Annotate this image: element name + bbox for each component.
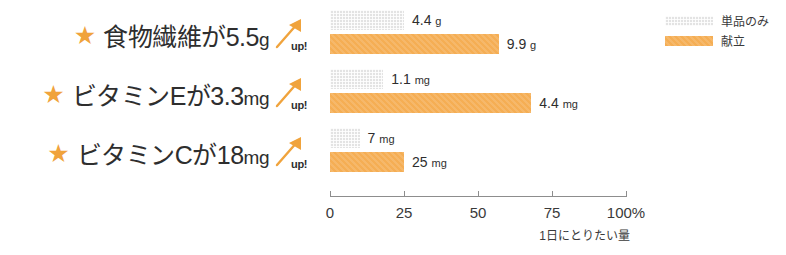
bar-value-number: 4.4: [412, 12, 431, 28]
legend: 単品のみ 献立: [665, 13, 769, 53]
axis-tick-label: 25: [396, 204, 413, 221]
legend-label: 単品のみ: [721, 12, 769, 29]
up-arrow-icon: up!: [274, 77, 314, 111]
claim-nutrient: 食物繊維が: [103, 23, 226, 51]
bar-group-vitamin-e: 1.1 mg 4.4 mg: [330, 69, 630, 117]
axis-caption: 1日にとりたい量: [539, 226, 630, 243]
claim-row-vitamin-c: ★ ビタミンCが18mg up!: [0, 130, 318, 176]
bar-single-item: [330, 10, 404, 30]
bar-value-meal-set: 25 mg: [412, 152, 447, 173]
axis-tick-label: 100%: [607, 204, 645, 221]
legend-swatch-icon: [665, 36, 713, 46]
bar-meal-set: [330, 34, 499, 54]
bar-value-meal-set: 4.4 mg: [539, 93, 578, 114]
claim-unit: mg: [244, 147, 269, 168]
bar-value-unit: mg: [379, 133, 394, 145]
claim-amount: 18: [217, 141, 244, 169]
star-icon: ★: [42, 82, 64, 107]
bar-value-unit: g: [435, 15, 441, 27]
bar-single-item: [330, 128, 360, 148]
claim-label: 食物繊維が5.5g: [103, 17, 269, 53]
bar-value-unit: mg: [431, 157, 446, 169]
claim-amount: 5.5: [226, 23, 259, 51]
bar-value-number: 9.9: [507, 36, 526, 52]
claim-label: ビタミンEが3.3mg: [72, 76, 269, 112]
bar-value-number: 4.4: [539, 95, 558, 111]
star-icon: ★: [47, 141, 69, 166]
legend-label: 献立: [721, 32, 745, 49]
axis-tick: [626, 191, 627, 197]
up-badge-text: up!: [291, 158, 307, 170]
axis-tick: [478, 191, 479, 197]
bar-group-vitamin-c: 7 mg 25 mg: [330, 128, 630, 176]
axis-tick: [552, 191, 553, 197]
claim-row-vitamin-e: ★ ビタミンEが3.3mg up!: [0, 71, 318, 117]
axis-tick-label: 50: [470, 204, 487, 221]
bar-value-single-item: 1.1 mg: [391, 69, 430, 90]
legend-swatch-icon: [665, 16, 713, 26]
legend-item-meal-set: 献立: [665, 33, 769, 48]
bar-value-unit: mg: [563, 98, 578, 110]
bar-value-number: 7: [368, 130, 376, 146]
claim-nutrient: ビタミンCが: [77, 141, 217, 169]
claim-row-fiber: ★ 食物繊維が5.5g up!: [0, 12, 318, 58]
bar-meal-set: [330, 93, 531, 113]
axis-tick: [330, 191, 331, 197]
legend-item-single-item: 単品のみ: [665, 13, 769, 28]
bar-value-number: 25: [412, 154, 428, 170]
claim-label: ビタミンCが18mg: [77, 135, 269, 171]
claim-unit: mg: [244, 88, 269, 109]
bar-meal-set: [330, 152, 404, 172]
up-badge-text: up!: [291, 99, 307, 111]
claim-amount: 3.3: [210, 82, 243, 110]
bar-value-meal-set: 9.9 g: [507, 34, 536, 55]
bar-value-single-item: 7 mg: [368, 128, 395, 149]
up-badge-text: up!: [291, 40, 307, 52]
bar-value-unit: g: [530, 39, 536, 51]
axis-tick: [404, 191, 405, 197]
bar-value-unit: mg: [415, 74, 430, 86]
axis-tick-label: 75: [544, 204, 561, 221]
claim-unit: g: [259, 29, 269, 50]
nutrition-bar-chart: ★ 食物繊維が5.5g up! ★ ビタミンEが3.3mg up! ★ ビタミン…: [0, 0, 786, 255]
axis-tick-label: 0: [326, 204, 334, 221]
claim-nutrient: ビタミンEが: [72, 82, 211, 110]
up-arrow-icon: up!: [274, 18, 314, 52]
bar-value-number: 1.1: [391, 71, 410, 87]
bar-single-item: [330, 69, 383, 89]
bar-value-single-item: 4.4 g: [412, 10, 441, 31]
bar-group-fiber: 4.4 g 9.9 g: [330, 10, 630, 58]
up-arrow-icon: up!: [274, 136, 314, 170]
star-icon: ★: [74, 23, 96, 48]
